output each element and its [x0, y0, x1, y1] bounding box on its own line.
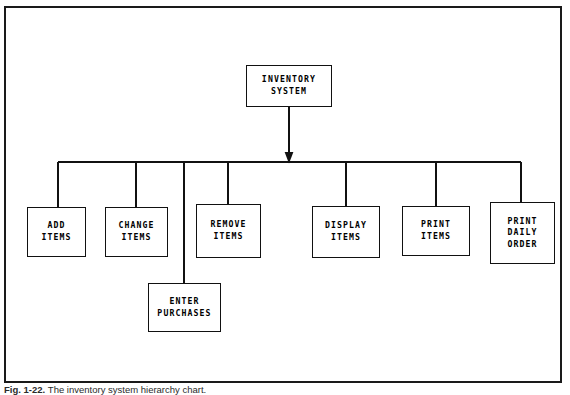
node-inventory-system[interactable]: INVENTORY SYSTEM — [246, 65, 332, 107]
node-label-line: DAILY — [507, 227, 537, 239]
node-label-line: ENTER — [169, 296, 199, 308]
node-label-line: PRINT — [421, 219, 451, 231]
node-label-line: ITEMS — [421, 231, 451, 243]
figure-caption-label: Fig. 1-22. — [4, 384, 45, 395]
node-label-line: ITEMS — [213, 231, 243, 243]
node-label-line: INVENTORY — [262, 74, 316, 86]
node-label-line: PRINT — [507, 216, 537, 228]
node-label-line: CHANGE — [118, 220, 154, 232]
node-label-line: DISPLAY — [325, 220, 367, 232]
node-remove-items[interactable]: REMOVE ITEMS — [196, 204, 261, 258]
figure-caption-text: The inventory system hierarchy chart. — [48, 384, 206, 395]
node-display-items[interactable]: DISPLAY ITEMS — [312, 206, 380, 258]
node-label-line: SYSTEM — [271, 86, 307, 98]
node-label-line: ADD — [47, 220, 65, 232]
node-change-items[interactable]: CHANGE ITEMS — [105, 207, 168, 257]
node-print-items[interactable]: PRINT ITEMS — [402, 206, 470, 256]
node-add-items[interactable]: ADD ITEMS — [27, 207, 86, 257]
node-print-daily-order[interactable]: PRINT DAILY ORDER — [490, 202, 555, 264]
node-label-line: PURCHASES — [157, 308, 211, 320]
node-label-line: ITEMS — [121, 232, 151, 244]
node-enter-purchases[interactable]: ENTER PURCHASES — [148, 283, 221, 332]
node-label-line: ITEMS — [331, 232, 361, 244]
figure-border — [4, 6, 562, 383]
node-label-line: REMOVE — [210, 219, 246, 231]
node-label-line: ORDER — [507, 239, 537, 251]
figure-caption: Fig. 1-22. The inventory system hierarch… — [4, 384, 424, 395]
node-label-line: ITEMS — [41, 232, 71, 244]
